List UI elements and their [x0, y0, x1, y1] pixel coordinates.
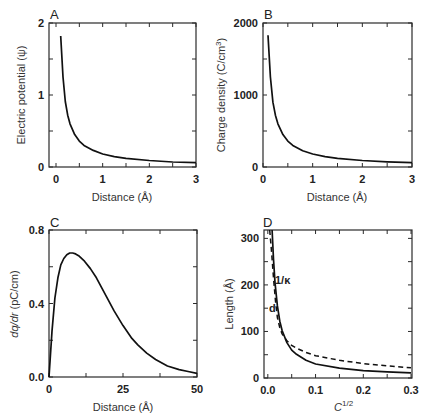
- panel-c-y-label-units: (pC/cm): [8, 270, 20, 312]
- panel-b-letter: B: [264, 7, 273, 22]
- figure: A 0123012 Distance (Å) Electric potentia…: [0, 0, 424, 418]
- y-tick-label: 0: [38, 161, 44, 173]
- panel-d-ticks: 0.00.10.20.30100200300: [241, 230, 419, 396]
- x-tick-label: 3: [409, 173, 415, 185]
- x-tick-label: 0.3: [403, 384, 418, 396]
- panel-b-x-axis-label: Distance (Å): [307, 191, 368, 203]
- panel-d-d-annotation: d: [269, 302, 276, 314]
- panel-c-axes-frame: [49, 230, 197, 377]
- panel-c-y-label-italic: dq/dr: [8, 311, 20, 337]
- panel-a-axes-frame: [49, 23, 196, 167]
- y-tick-label: 100: [241, 325, 259, 337]
- panel-a-y-axis-label: Electric potential (ψ): [15, 46, 27, 145]
- y-tick-label: 200: [241, 279, 259, 291]
- panel-d-debye-length-curve: [272, 230, 411, 373]
- panel-d-x-label-sup: 1/2: [342, 399, 354, 408]
- x-tick-label: 0.0: [260, 384, 275, 396]
- x-tick-label: 0: [260, 173, 266, 185]
- y-tick-label: 1000: [234, 89, 258, 101]
- panel-d-x-label-base: C: [334, 401, 342, 413]
- panel-c-x-axis-label: Distance (Å): [93, 401, 154, 413]
- y-tick-label: 0: [252, 161, 258, 173]
- x-tick-label: 2: [359, 173, 365, 185]
- panel-d: D 0.00.10.20.30100200300 1/κ d C1/2 Leng…: [223, 215, 419, 413]
- x-tick-label: 25: [117, 383, 129, 395]
- y-tick-label: 1: [38, 89, 44, 101]
- y-tick-label: 2000: [234, 17, 258, 29]
- panel-b: B 0123010002000 Distance (Å) Charge dens…: [214, 7, 415, 203]
- y-tick-label: 0.8: [29, 224, 44, 236]
- x-tick-label: 0: [46, 383, 52, 395]
- panel-b-y-label-main: Charge density (C/cm: [215, 46, 227, 152]
- y-tick-label: 2: [38, 17, 44, 29]
- panel-b-y-axis-label: Charge density (C/cm3): [214, 38, 227, 153]
- y-tick-label: 0.0: [29, 371, 44, 383]
- panel-b-charge-density-curve: [268, 35, 412, 163]
- y-tick-label: 0.4: [29, 298, 45, 310]
- panel-c: C 025500.00.40.8 Distance (Å) dq/dr (pC/…: [8, 215, 203, 413]
- panel-d-d-dashed-curve: [270, 230, 411, 368]
- panel-d-axes-frame: [264, 230, 412, 378]
- panel-a-x-axis-label: Distance (Å): [92, 191, 153, 203]
- x-tick-label: 0: [53, 173, 59, 185]
- x-tick-label: 50: [191, 383, 203, 395]
- x-tick-label: 3: [193, 173, 199, 185]
- panel-a-potential-curve: [61, 36, 196, 163]
- panel-d-x-axis-label: C1/2: [334, 399, 354, 413]
- panel-d-kappa-annotation: 1/κ: [275, 274, 291, 286]
- panel-b-axes-frame: [263, 23, 412, 167]
- panel-a-ticks: 0123012: [38, 17, 199, 185]
- panel-b-ticks: 0123010002000: [234, 17, 416, 185]
- panel-c-letter: C: [50, 215, 59, 230]
- panel-a-letter: A: [50, 7, 59, 22]
- y-tick-label: 0: [253, 372, 259, 384]
- x-tick-label: 1: [310, 173, 316, 185]
- panel-a: A 0123012 Distance (Å) Electric potentia…: [15, 7, 199, 203]
- panel-c-dqdr-curve: [49, 253, 197, 377]
- x-tick-label: 2: [146, 173, 152, 185]
- panel-c-y-axis-label: dq/dr (pC/cm): [8, 270, 20, 337]
- x-tick-label: 1: [100, 173, 106, 185]
- x-tick-label: 0.1: [308, 384, 323, 396]
- x-tick-label: 0.2: [356, 384, 371, 396]
- panel-d-letter: D: [263, 215, 272, 230]
- panel-d-y-axis-label: Length (Å): [223, 278, 235, 329]
- panel-b-y-label-close: ): [215, 38, 227, 42]
- y-tick-label: 300: [241, 232, 259, 244]
